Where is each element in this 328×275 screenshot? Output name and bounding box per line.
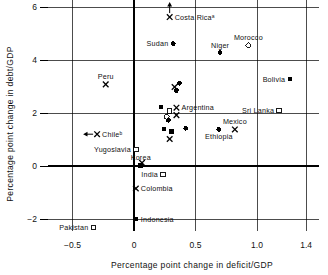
x-tick-label: 0 xyxy=(132,240,137,250)
marker-filled-circle xyxy=(218,50,223,55)
marker-open-square xyxy=(91,225,96,230)
marker-filled-square xyxy=(169,129,174,134)
point-label: Mexico xyxy=(223,117,247,126)
point-label: Indonesia xyxy=(141,215,174,224)
marker-open-square xyxy=(167,109,172,114)
marker-cross xyxy=(174,105,180,111)
axis-tick-labels: −20246−0.500.51.01.4 xyxy=(27,2,312,250)
marker-open-square xyxy=(277,108,282,113)
point-label: Pakistan xyxy=(59,223,88,232)
marker-filled-circle xyxy=(166,118,171,123)
point-label: Ethiopia xyxy=(205,132,233,141)
x-tick-label: 0.5 xyxy=(190,240,202,250)
marker-filled-circle xyxy=(171,41,176,46)
marker-filled-circle xyxy=(174,88,179,93)
marker-filled-circle xyxy=(288,77,293,82)
x-tick-label: −0.5 xyxy=(64,240,81,250)
point-label: Costa Ricaᵃ xyxy=(175,13,215,22)
point-label: Yugoslavia xyxy=(94,145,131,154)
point-label: Colombia xyxy=(141,184,173,193)
marker-cross xyxy=(103,82,109,88)
marker-filled-circle xyxy=(177,81,182,86)
point-label: Peru xyxy=(98,72,114,81)
marker-filled-circle xyxy=(183,126,188,131)
scatter-plot-svg: −20246−0.500.51.01.4 Costa RicaᵃSudanNig… xyxy=(0,0,328,275)
marker-filled-square xyxy=(159,105,164,110)
marker-cross xyxy=(167,14,173,20)
marker-open-square xyxy=(134,147,139,152)
point-label: Sudan xyxy=(147,39,169,48)
marker-cross xyxy=(167,136,173,142)
y-axis-title: Percentage point change in debt/GDP xyxy=(5,46,15,201)
y-tick-label: 4 xyxy=(32,55,37,65)
point-label: Bolivia xyxy=(263,75,286,84)
gridlines xyxy=(48,0,319,231)
point-label: Chileᵇ xyxy=(102,130,122,139)
marker-filled-square xyxy=(134,217,139,222)
point-label: India xyxy=(141,170,158,179)
x-axis-title: Percentage point change in deficit/GDP xyxy=(111,260,273,270)
point-label: Niger xyxy=(211,41,230,50)
x-tick-label: 1.4 xyxy=(300,240,312,250)
marker-filled-circle xyxy=(216,127,221,132)
marker-cross xyxy=(232,127,238,133)
point-label: Argentina xyxy=(181,103,214,112)
point-label: Sri Lanka xyxy=(242,106,274,115)
marker-open-square xyxy=(161,172,166,177)
scatter-chart-figure: −20246−0.500.51.01.4 Costa RicaᵃSudanNig… xyxy=(0,0,328,275)
marker-filled-square xyxy=(162,127,167,132)
y-tick-label: 6 xyxy=(32,2,37,12)
point-label: Korea xyxy=(131,153,151,162)
x-tick-label: 1.0 xyxy=(251,240,263,250)
marker-open-circle xyxy=(246,43,251,48)
y-tick-label: −2 xyxy=(27,214,37,224)
y-tick-label: 2 xyxy=(32,108,37,118)
y-tick-label: 0 xyxy=(32,161,37,171)
axis-ticks xyxy=(40,7,48,219)
point-label: Morocco xyxy=(234,33,263,42)
offscale-arrow-up xyxy=(167,2,172,13)
marker-cross xyxy=(94,131,100,137)
offscale-arrow-left xyxy=(83,132,93,137)
